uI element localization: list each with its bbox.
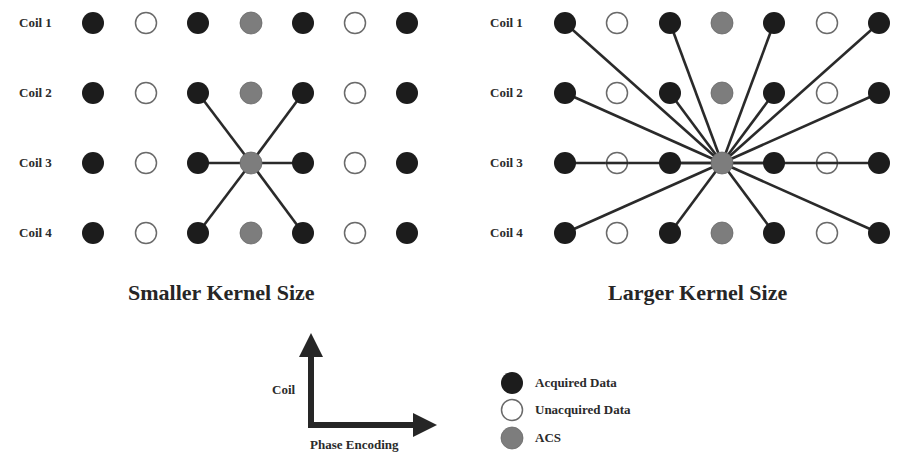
acquired-data-point [868,222,890,244]
acquired-data-point [292,12,314,34]
acquired-data-point [292,82,314,104]
kernel-connections [565,23,879,233]
row-label-coil-4-right: Coil 4 [490,225,523,241]
acquired-data-point [187,12,209,34]
row-label-coil-3-left: Coil 3 [19,155,52,171]
acquired-data-point [396,222,418,244]
kernel-line [722,23,879,163]
acs-data-point [711,12,733,34]
kernel-diagram [0,0,905,470]
row-label-coil-3-right: Coil 3 [490,155,523,171]
legend-acs-label: ACS [535,430,561,446]
axis-label-phase-encoding: Phase Encoding [310,437,399,453]
unacquired-data-point [607,83,628,104]
acquired-data-point [763,12,785,34]
acquired-data-point [187,152,209,174]
kernel-line [251,163,303,233]
acquired-data-point [868,82,890,104]
unacquired-data-point [345,153,366,174]
smaller-kernel-panel [82,12,418,244]
smaller-kernel-title: Smaller Kernel Size [128,280,315,306]
acquired-data-point [659,222,681,244]
acs-data-point [711,222,733,244]
axes-icon [308,345,425,425]
legend-unacquired-icon [502,400,523,421]
unacquired-data-point [817,83,838,104]
acquired-data-point [396,152,418,174]
acquired-data-point [82,152,104,174]
kernel-line [722,163,879,233]
acs-data-point [711,82,733,104]
kernel-line [722,93,879,163]
kernel-line [198,163,251,233]
acs-data-point [240,152,262,174]
acs-data-point [240,222,262,244]
acquired-data-point [659,12,681,34]
unacquired-data-point [136,13,157,34]
acquired-data-point [82,82,104,104]
larger-kernel-title: Larger Kernel Size [608,280,787,306]
acquired-data-point [868,12,890,34]
row-label-coil-2-right: Coil 2 [490,85,523,101]
row-label-coil-4-left: Coil 4 [19,225,52,241]
acquired-data-point [396,12,418,34]
legend-acs-icon [501,427,523,449]
kernel-line [565,163,722,233]
acs-data-point [240,82,262,104]
unacquired-data-point [136,83,157,104]
row-label-coil-2-left: Coil 2 [19,85,52,101]
kernel-line [565,93,722,163]
unacquired-data-point [136,153,157,174]
acquired-data-point [659,82,681,104]
legend-acquired-label: Acquired Data [535,375,617,391]
larger-kernel-panel [554,12,890,244]
acquired-data-point [82,222,104,244]
row-label-coil-1-left: Coil 1 [19,15,52,31]
acquired-data-point [554,152,576,174]
acquired-data-point [763,82,785,104]
unacquired-data-point [817,13,838,34]
legend-acquired-icon [501,372,523,394]
kernel-line [251,93,303,163]
kernel-line [565,23,722,163]
unacquired-data-point [607,223,628,244]
acs-data-point [240,12,262,34]
legend-unacquired-label: Unacquired Data [535,402,630,418]
acquired-data-point [554,82,576,104]
acquired-data-point [763,152,785,174]
unacquired-data-point [817,223,838,244]
acquired-data-point [292,152,314,174]
acquired-data-point [187,82,209,104]
acquired-data-point [396,82,418,104]
acquired-data-point [868,152,890,174]
acquired-data-point [554,222,576,244]
unacquired-data-point [607,13,628,34]
acquired-data-point [187,222,209,244]
legend-swatches [501,372,523,449]
acs-data-point [711,152,733,174]
acquired-data-point [763,222,785,244]
unacquired-data-point [136,223,157,244]
unacquired-data-point [345,83,366,104]
acquired-data-point [554,12,576,34]
acquired-data-point [82,12,104,34]
acquired-data-point [292,222,314,244]
acquired-data-point [659,152,681,174]
unacquired-data-point [345,223,366,244]
unacquired-data-point [345,13,366,34]
axis-label-coil: Coil [272,382,295,398]
kernel-line [198,93,251,163]
row-label-coil-1-right: Coil 1 [490,15,523,31]
